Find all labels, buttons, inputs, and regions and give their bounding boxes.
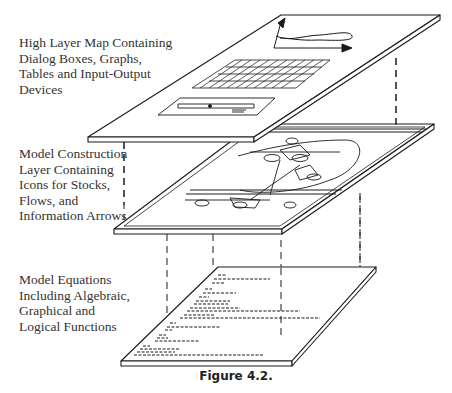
high-layer-plate bbox=[88, 15, 440, 142]
figure-caption: Figure 4.2. bbox=[0, 369, 452, 383]
layer-stack-illustration bbox=[0, 0, 452, 393]
equations-plate bbox=[121, 267, 376, 366]
